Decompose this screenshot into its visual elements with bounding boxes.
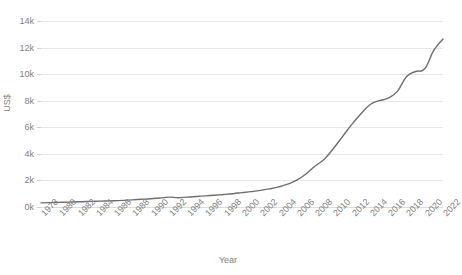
y-axis-tick-labels: 0k2k4k6k8k10k12k14k [0,0,38,275]
x-axis-tick-labels: 1978198019821984198619881990199219941996… [41,207,443,253]
y-tick-label: 2k [24,175,34,185]
y-tick-label: 0k [24,202,34,212]
y-tick-label: 10k [19,69,34,79]
x-tick-label: 2022 [441,197,462,218]
series-line [41,21,443,207]
y-tick-label: 14k [19,16,34,26]
series-path [41,39,443,203]
x-axis-title: Year [0,255,456,265]
plot-area [41,21,443,207]
y-tick-label: 8k [24,96,34,106]
y-tick-label: 12k [19,43,34,53]
y-tick-label: 6k [24,122,34,132]
y-tick-label: 4k [24,149,34,159]
